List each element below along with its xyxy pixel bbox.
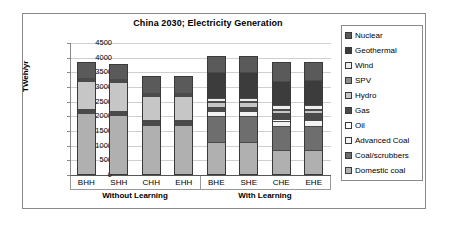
x-axis-group-label-without-learning: Without Learning bbox=[70, 191, 200, 200]
x-axis-group-divider-0 bbox=[70, 176, 71, 190]
bar-segment-CHE-geothermal bbox=[273, 81, 290, 105]
bar-segment-EHE-coal-scrubbers bbox=[305, 126, 322, 151]
y-tick-mark-2500 bbox=[67, 102, 70, 103]
bar-segment-SHE-coal-scrubbers bbox=[240, 116, 257, 142]
y-tick-mark-4000 bbox=[67, 58, 70, 59]
x-axis-group-label-with-learning: With Learning bbox=[200, 191, 330, 200]
bar-segment-CHH-nuclear bbox=[143, 77, 160, 93]
bar-EHH[interactable] bbox=[174, 76, 193, 175]
bar-SHH[interactable] bbox=[109, 64, 128, 175]
legend-item-label: Domestic coal bbox=[355, 166, 405, 175]
bar-segment-CHE-domestic-coal bbox=[273, 150, 290, 175]
legend-item-coal-scrubbers[interactable]: Coal/scrubbers bbox=[345, 148, 420, 163]
bar-segment-EHH-hydro bbox=[175, 96, 192, 120]
bar-segment-SHE-geothermal bbox=[240, 72, 257, 98]
bar-EHE[interactable] bbox=[304, 62, 323, 175]
legend-swatch-icon bbox=[345, 107, 352, 114]
bar-segment-SHE-domestic-coal bbox=[240, 142, 257, 175]
y-tick-mark-500 bbox=[67, 160, 70, 161]
bar-segment-BHE-coal-scrubbers bbox=[208, 116, 225, 142]
bar-segment-SHH-domestic-coal bbox=[110, 115, 127, 175]
y-tick-mark-3000 bbox=[67, 87, 70, 88]
legend-item-label: Advanced Coal bbox=[355, 136, 409, 145]
legend-item-label: Hydro bbox=[355, 91, 376, 100]
legend-swatch-icon bbox=[345, 62, 352, 69]
legend-item-geothermal[interactable]: Geothermal bbox=[345, 43, 420, 58]
bar-segment-SHH-hydro bbox=[110, 82, 127, 111]
legend-item-hydro[interactable]: Hydro bbox=[345, 88, 420, 103]
bar-segment-EHH-domestic-coal bbox=[175, 125, 192, 175]
bar-segment-CHH-hydro bbox=[143, 96, 160, 120]
legend-item-domestic-coal[interactable]: Domestic coal bbox=[345, 163, 420, 178]
bar-segment-EHH-nuclear bbox=[175, 77, 192, 93]
y-tick-mark-1500 bbox=[67, 131, 70, 132]
x-axis-group-divider-2 bbox=[330, 176, 331, 190]
y-axis-label: TWeh/yr bbox=[21, 61, 30, 92]
x-axis-group-divider-1 bbox=[200, 176, 201, 190]
legend-swatch-icon bbox=[345, 92, 352, 99]
bar-segment-CHE-coal-scrubbers bbox=[273, 126, 290, 150]
bar-segment-CHH-domestic-coal bbox=[143, 125, 160, 175]
legend-swatch-icon bbox=[345, 152, 352, 159]
bar-segment-SHE-nuclear bbox=[240, 57, 257, 72]
chart-title: China 2030; Electricity Generation bbox=[83, 18, 333, 28]
legend-item-label: Nuclear bbox=[355, 31, 383, 40]
y-tick-mark-4500 bbox=[67, 43, 70, 44]
legend-swatch-icon bbox=[345, 137, 352, 144]
chart-frame: China 2030; Electricity Generation TWeh/… bbox=[22, 13, 426, 209]
legend-item-label: SPV bbox=[355, 76, 371, 85]
legend-item-label: Gas bbox=[355, 106, 370, 115]
legend-swatch-icon bbox=[345, 122, 352, 129]
bar-segment-BHE-nuclear bbox=[208, 57, 225, 72]
bar-segment-CHE-nuclear bbox=[273, 63, 290, 80]
bar-BHH[interactable] bbox=[77, 62, 96, 175]
legend-item-label: Wind bbox=[355, 61, 373, 70]
bar-SHE[interactable] bbox=[239, 56, 258, 175]
y-tick-mark-2000 bbox=[67, 116, 70, 117]
bar-segment-BHE-domestic-coal bbox=[208, 142, 225, 175]
bar-CHE[interactable] bbox=[272, 62, 291, 175]
x-tick-label-EHE: EHE bbox=[294, 178, 334, 187]
legend-swatch-icon bbox=[345, 32, 352, 39]
bar-segment-SHH-nuclear bbox=[110, 65, 127, 79]
legend-item-wind[interactable]: Wind bbox=[345, 58, 420, 73]
legend-item-gas[interactable]: Gas bbox=[345, 103, 420, 118]
bar-segment-BHH-domestic-coal bbox=[78, 113, 95, 175]
legend-item-label: Coal/scrubbers bbox=[355, 151, 409, 160]
bar-segment-BHH-nuclear bbox=[78, 63, 95, 78]
legend-item-nuclear[interactable]: Nuclear bbox=[345, 28, 420, 43]
legend-swatch-icon bbox=[345, 77, 352, 84]
y-tick-mark-3500 bbox=[67, 72, 70, 73]
legend-item-label: Geothermal bbox=[355, 46, 397, 55]
legend-item-advanced-coal[interactable]: Advanced Coal bbox=[345, 133, 420, 148]
bar-segment-EHE-geothermal bbox=[305, 80, 322, 104]
bar-segment-EHE-domestic-coal bbox=[305, 150, 322, 175]
bar-segment-BHE-geothermal bbox=[208, 72, 225, 98]
legend-swatch-icon bbox=[345, 167, 352, 174]
legend-item-label: Oil bbox=[355, 121, 365, 130]
y-tick-label-4000: 4000 bbox=[82, 54, 112, 61]
bar-BHE[interactable] bbox=[207, 56, 226, 175]
chart-legend: NuclearGeothermalWindSPVHydroGasOilAdvan… bbox=[341, 25, 423, 181]
legend-item-spv[interactable]: SPV bbox=[345, 73, 420, 88]
legend-item-oil[interactable]: Oil bbox=[345, 118, 420, 133]
bar-CHH[interactable] bbox=[142, 76, 161, 175]
y-tick-label-4500: 4500 bbox=[82, 39, 112, 46]
y-tick-mark-1000 bbox=[67, 146, 70, 147]
bar-segment-BHH-hydro bbox=[78, 81, 95, 109]
bar-segment-EHE-nuclear bbox=[305, 63, 322, 80]
legend-swatch-icon bbox=[345, 47, 352, 54]
